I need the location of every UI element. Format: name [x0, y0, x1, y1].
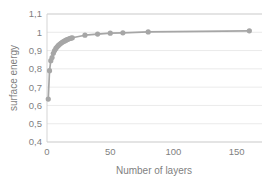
surface-energy-line-chart: 0,40,50,60,70,80,911,1 050100150 Number … — [0, 0, 273, 186]
x-axis-title: Number of layers — [116, 165, 192, 176]
y-tick-label: 0,4 — [29, 136, 42, 147]
y-tick-label: 1 — [37, 27, 42, 38]
data-point-marker — [70, 35, 75, 40]
data-point-marker — [82, 33, 87, 38]
y-tick-label: 0,9 — [29, 45, 42, 56]
x-tick-label: 100 — [166, 146, 182, 157]
y-tick-label: 0,7 — [29, 82, 42, 93]
data-point-marker — [247, 28, 252, 33]
x-tick-label: 150 — [229, 146, 245, 157]
y-tick-label: 0,6 — [29, 100, 42, 111]
x-tick-label: 0 — [44, 146, 49, 157]
data-point-marker — [46, 96, 51, 101]
data-point-marker — [108, 31, 113, 36]
y-tick-label: 1,1 — [29, 8, 42, 19]
y-axis-title: surface energy — [8, 45, 19, 111]
chart-container: 0,40,50,60,70,80,911,1 050100150 Number … — [0, 0, 273, 186]
y-tick-label: 0,8 — [29, 63, 42, 74]
data-point-marker — [146, 29, 151, 34]
y-tick-label: 0,5 — [29, 118, 42, 129]
data-point-marker — [47, 68, 52, 73]
data-point-marker — [120, 30, 125, 35]
data-point-marker — [95, 32, 100, 37]
x-tick-label: 50 — [105, 146, 116, 157]
